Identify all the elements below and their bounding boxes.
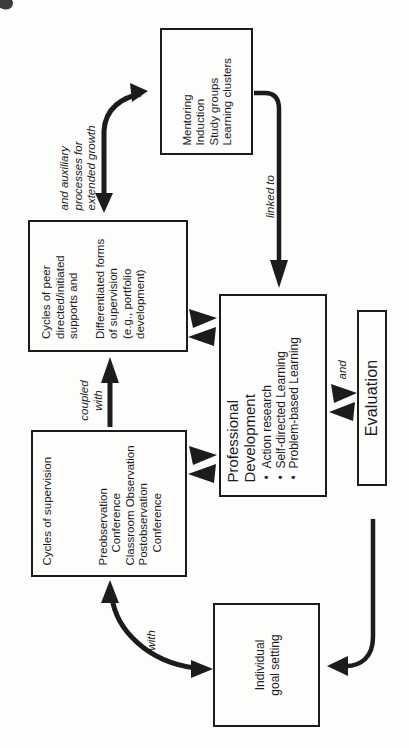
individual-goal-line: goal setting — [267, 605, 282, 725]
mentoring-box: Mentoring Induction Study groups Learnin… — [160, 28, 253, 155]
pd-title-line: Professional — [224, 296, 241, 482]
bullet-icon: • — [275, 468, 289, 482]
peer-cycles-box: Cycles of peer directed/initiated suppor… — [28, 220, 188, 352]
auxiliary-double-arrow — [95, 83, 148, 213]
mentoring-line: Study groups — [207, 30, 221, 145]
supervision-item: Classroom Observation — [124, 432, 138, 565]
peer-cycles-line: Cycles of peer — [40, 222, 54, 339]
peer-cycles-line: of supervision — [107, 222, 121, 339]
linked-to-label: linked to — [264, 168, 278, 218]
pd-bullet-item: • Self-directed Learning — [275, 296, 289, 482]
supervision-item: Conference — [110, 432, 124, 565]
peer-cycles-line: (e.g., portfolio — [121, 222, 135, 339]
peer-cycles-line: supports and — [67, 222, 81, 339]
mentoring-line: Mentoring — [180, 30, 194, 145]
auxiliary-processes-label: and auxiliary processes for extended gro… — [58, 86, 102, 211]
professional-development-box: Professional Development • Action resear… — [219, 294, 327, 497]
and-label: and — [336, 356, 349, 380]
with-label: with — [145, 623, 158, 651]
bullet-icon: • — [288, 468, 302, 482]
mentoring-line: Induction — [193, 30, 207, 145]
evaluation-label: Evaluation — [361, 312, 383, 484]
pd-evaluation-link-arrowheads — [329, 384, 357, 421]
supervision-item: Conference — [151, 432, 165, 565]
scan-artifact — [0, 0, 15, 11]
supervision-title: Cycles of supervision — [41, 432, 55, 565]
diagram-page: Mentoring Induction Study groups Learnin… — [0, 0, 409, 748]
pd-bullet-item: • Action research — [261, 296, 275, 482]
mentoring-line: Learning clusters — [220, 30, 234, 145]
peer-pd-link-arrowheads — [188, 309, 217, 346]
supervision-item: Preobservation — [97, 432, 111, 565]
peer-cycles-line: development) — [134, 222, 148, 339]
supervision-item: Postobservation — [137, 432, 151, 565]
coupled-with-label: coupled with — [78, 377, 105, 425]
individual-goal-line: Individual — [252, 605, 267, 725]
bullet-icon: • — [261, 468, 275, 482]
supervision-pd-link-arrowheads — [188, 446, 217, 483]
supervision-cycles-box: Cycles of supervision Preobservation Con… — [31, 430, 187, 577]
pd-bullet-item: • Problem-based Learning — [288, 296, 302, 482]
peer-cycles-line: Differentiated forms — [94, 222, 108, 339]
peer-cycles-line: directed/initiated — [54, 222, 68, 339]
pd-title-line: Development — [241, 296, 258, 482]
individual-goal-box: Individual goal setting — [213, 603, 320, 727]
evaluation-box: Evaluation — [357, 310, 387, 486]
evaluation-to-goal-arrow — [327, 519, 373, 676]
